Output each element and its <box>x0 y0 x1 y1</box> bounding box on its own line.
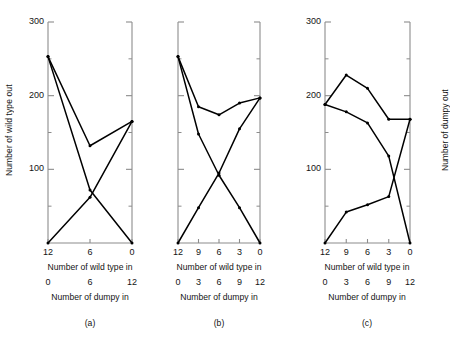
panel-c-xtick-label-secondary: 12 <box>400 277 420 287</box>
panel-a-ytick-label: 300 <box>20 16 44 26</box>
panel-c-point <box>324 103 327 106</box>
panel-a-point <box>47 55 50 58</box>
panel-c-xtick-label-primary: 6 <box>358 247 378 257</box>
panel-c-point <box>366 87 369 90</box>
panel-c-ytick-label: 300 <box>297 16 321 26</box>
panel-a-xtick-label-secondary: 12 <box>122 277 142 287</box>
panel-a-point <box>131 242 134 245</box>
panel-c-xtick-label-primary: 9 <box>336 247 356 257</box>
panel-b-point <box>238 127 241 130</box>
panel-c-point <box>345 74 348 77</box>
panel-a-series-1 <box>48 57 132 243</box>
panel-a-xtick-label-primary: 6 <box>80 247 100 257</box>
panel-b-point <box>259 96 262 99</box>
panel-c-series-1 <box>325 105 410 243</box>
panel-caption-a: (a) <box>85 318 96 328</box>
panel-a-ytick-label: 100 <box>20 163 44 173</box>
y-axis-label-right: Number of dumpy out <box>438 14 452 246</box>
panel-a-point <box>89 196 92 199</box>
panel-b-xtick-label-primary: 6 <box>209 247 229 257</box>
panel-b-point <box>197 105 200 108</box>
y-axis-label-left: Number of wild type out <box>2 14 16 246</box>
panel-c-xtick-label-primary: 0 <box>400 247 420 257</box>
panel-b-point <box>259 96 262 99</box>
panel-c-xtick-label-secondary: 6 <box>358 277 378 287</box>
panel-b-point <box>197 132 200 135</box>
panel-b-point <box>177 242 180 245</box>
panel-a-point <box>47 242 50 245</box>
panel-b-xtick-label-primary: 3 <box>230 247 250 257</box>
panel-a-series-2 <box>48 121 132 243</box>
panel-a-plot <box>0 0 453 338</box>
panel-b-plot <box>0 0 453 338</box>
panel-a-point <box>89 188 92 191</box>
panel-b-xtick-label-primary: 0 <box>250 247 270 257</box>
panel-c-point <box>409 118 412 121</box>
panel-b-point <box>177 55 180 58</box>
panel-c-series-0 <box>325 75 410 119</box>
panel-b-point <box>259 242 262 245</box>
panel-b-point <box>218 113 221 116</box>
panel-c-point <box>409 118 412 121</box>
panel-b-xtick-label-primary: 9 <box>189 247 209 257</box>
panel-b-xlabel-primary: Number of wild type in <box>176 262 261 272</box>
panel-c-point <box>324 103 327 106</box>
panel-b-xlabel-secondary: Number of dumpy in <box>180 292 257 302</box>
panel-a-xtick-label-secondary: 0 <box>38 277 58 287</box>
panel-c-xtick-label-primary: 12 <box>315 247 335 257</box>
panel-a-series-0 <box>48 57 132 146</box>
panel-b-xtick-label-secondary: 0 <box>168 277 188 287</box>
panel-c-plot <box>0 0 453 338</box>
panel-c-ytick-label: 200 <box>297 90 321 100</box>
panel-b-point <box>197 206 200 209</box>
panel-c-ytick-label: 100 <box>297 163 321 173</box>
panel-b-xtick-label-primary: 12 <box>168 247 188 257</box>
panel-caption-c: (c) <box>362 318 372 328</box>
panel-c-point <box>409 242 412 245</box>
panel-a-point <box>89 144 92 147</box>
panel-b-point <box>218 174 221 177</box>
panel-c-xtick-label-secondary: 0 <box>315 277 335 287</box>
panel-b-series-0 <box>178 57 260 115</box>
panel-b-series-2 <box>178 98 260 243</box>
panel-c-point <box>345 211 348 214</box>
panel-b-xtick-label-secondary: 6 <box>209 277 229 287</box>
panel-b-point <box>218 172 221 175</box>
panel-c-xlabel-primary: Number of wild type in <box>324 262 409 272</box>
panel-a-xtick-label-secondary: 6 <box>80 277 100 287</box>
panel-b-xtick-label-secondary: 12 <box>250 277 270 287</box>
panel-a-xlabel-primary: Number of wild type in <box>47 262 132 272</box>
panel-c-point <box>324 242 327 245</box>
panel-c-xlabel-secondary: Number of dumpy in <box>328 292 405 302</box>
panel-c-series-2 <box>325 119 410 243</box>
panel-c-xtick-label-primary: 3 <box>379 247 399 257</box>
panel-c-xtick-label-secondary: 3 <box>336 277 356 287</box>
panel-b-point <box>177 55 180 58</box>
panel-c-point <box>387 195 390 198</box>
panel-b-point <box>238 102 241 105</box>
panel-b-series-1 <box>178 57 260 243</box>
panel-c-xtick-label-secondary: 9 <box>379 277 399 287</box>
panel-a-xtick-label-primary: 0 <box>122 247 142 257</box>
panel-a-point <box>47 55 50 58</box>
panel-c-point <box>345 110 348 113</box>
panel-a-point <box>131 120 134 123</box>
panel-a-point <box>131 120 134 123</box>
panel-c-point <box>366 121 369 124</box>
panel-c-point <box>387 118 390 121</box>
panel-b-xtick-label-secondary: 3 <box>189 277 209 287</box>
panel-a-ytick-label: 200 <box>20 90 44 100</box>
panel-a-xlabel-secondary: Number of dumpy in <box>51 292 128 302</box>
panel-a-xtick-label-primary: 12 <box>38 247 58 257</box>
panel-b-xtick-label-secondary: 9 <box>230 277 250 287</box>
panel-b-point <box>238 206 241 209</box>
panel-caption-b: (b) <box>214 318 225 328</box>
figure-root: Number of wild type outNumber of dumpy o… <box>0 0 453 338</box>
panel-c-point <box>387 155 390 158</box>
panel-c-point <box>366 203 369 206</box>
